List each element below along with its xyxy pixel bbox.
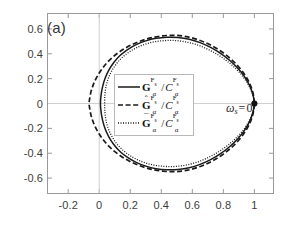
x-tick-label: 0: [96, 199, 102, 211]
legend-line-sample-dashed: [118, 100, 140, 110]
panel-label: (a): [47, 19, 66, 36]
legend-item-label: GFsα/CFsα: [140, 82, 182, 93]
y-tick-label: 0: [37, 98, 43, 110]
x-tick-label: 0.4: [153, 199, 169, 211]
x-tick-label: 0.2: [122, 199, 138, 211]
legend-item-label: ¯GFsα/CFsα: [140, 118, 182, 129]
legend-item: ¯GFsα/CFsα: [115, 114, 193, 132]
figure-panel-a: -0.6-0.4-0.200.20.40.6 -0.200.20.40.60.8…: [0, 0, 302, 235]
x-tick-label: 1: [251, 199, 257, 211]
y-tick-label: -0.6: [24, 172, 43, 184]
y-tick-label: 0.6: [27, 23, 43, 35]
legend-line-sample-solid: [118, 82, 140, 92]
y-tick-label: 0.2: [27, 73, 43, 85]
y-tick-label: 0.4: [27, 48, 43, 60]
omega-annotation: ωs=0: [226, 101, 252, 116]
x-tick-label: -0.2: [58, 199, 77, 211]
legend-line-sample-dotted: [118, 118, 140, 128]
x-tick-label: 0.6: [185, 199, 201, 211]
omega-value: 0: [246, 101, 252, 115]
legend-box: GFsα/CFsαˆGFsα/CFsα¯GFsα/CFsα: [114, 74, 194, 136]
x-tick-label: 0.8: [216, 199, 232, 211]
y-tick-label: -0.4: [24, 147, 43, 159]
legend-item-label: ˆGFsα/CFsα: [140, 100, 182, 111]
y-tick-label: -0.2: [24, 122, 43, 134]
